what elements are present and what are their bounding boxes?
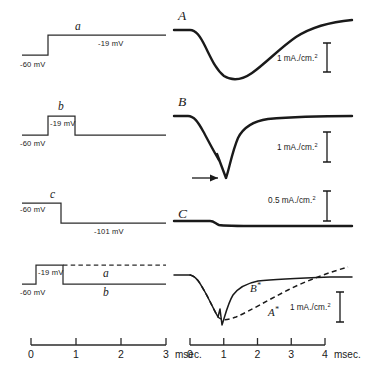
row-c-stimulus-panel: c -60 mV -101 mV [20, 188, 166, 236]
right-axis-tick-0: 0 [187, 348, 193, 360]
panel-letter-B: B [178, 94, 186, 109]
stimulus-holding-label-b: -60 mV [20, 139, 46, 148]
scalebar-label-D: 1mA./cm.2 [290, 302, 331, 312]
curve-label-A-star: A* [267, 305, 279, 318]
right-axis-tick-1: 1 [221, 348, 227, 360]
row-b-current-panel: B 1mA./cm.2 [174, 94, 352, 181]
right-axis-tick-2: 2 [255, 348, 261, 360]
stimulus-step-label-a: -19 mV [98, 39, 124, 48]
voltage-clamp-figure: a -60 mV -19 mV A 1mA./cm.2 b -60 mV -19… [0, 0, 372, 377]
left-axis-tick-2: 2 [118, 348, 124, 360]
stimulus-step-label-c: -101 mV [94, 227, 125, 236]
stimulus-trace-a [22, 35, 166, 55]
left-axis-tick-1: 1 [73, 348, 79, 360]
stimulus-letter-c: c [50, 188, 55, 200]
row-b-stimulus-panel: b -60 mV -19 mV [20, 100, 166, 148]
row-a-current-panel: A 1mA./cm.2 [174, 8, 352, 79]
current-trace-B [174, 116, 219, 160]
left-axis-tick-3: 3 [163, 348, 169, 360]
figure-root: a -60 mV -19 mV A 1mA./cm.2 b -60 mV -19… [0, 0, 372, 377]
stimulus-letter-a: a [75, 20, 81, 32]
stimulus-trace-label-b: b [103, 286, 109, 298]
stimulus-letter-b: b [58, 100, 64, 112]
right-time-axis: 0 1 2 3 4 msec. [187, 338, 361, 360]
stimulus-step-label-d: -19 mV [38, 268, 64, 277]
curve-label-B-star: B* [250, 281, 261, 294]
row-d-current-panel: B* A* 1mA./cm.2 [174, 267, 352, 325]
row-a-stimulus-panel: a -60 mV -19 mV [20, 20, 166, 69]
right-axis-unit: msec. [334, 349, 361, 360]
scalebar-label-C: 0.5mA./cm.2 [268, 195, 316, 205]
right-axis-tick-4: 4 [322, 348, 328, 360]
stimulus-holding-label-d: -60 mV [20, 288, 46, 297]
row-d-stimulus-panel: -60 mV -19 mV a b [20, 265, 166, 298]
panel-letter-A: A [177, 8, 187, 23]
left-time-axis: 0 1 2 3 msec. [28, 338, 202, 360]
row-c-current-panel: C 0.5mA./cm.2 [174, 191, 352, 226]
scalebar-label-B: 1mA./cm.2 [277, 142, 318, 152]
scalebar-label-A: 1mA./cm.2 [277, 53, 318, 63]
current-trace-C [174, 221, 352, 226]
arrow-marker-B [192, 175, 218, 182]
stimulus-trace-label-a: a [103, 267, 109, 279]
stimulus-holding-label-a: -60 mV [20, 60, 46, 69]
left-axis-tick-0: 0 [28, 348, 34, 360]
scalebar-C [323, 191, 331, 221]
current-trace-A [174, 20, 352, 79]
panel-letter-C: C [178, 206, 188, 221]
scalebar-A [323, 43, 331, 72]
stimulus-step-label-b: -19 mV [50, 119, 76, 128]
right-axis-tick-3: 3 [288, 348, 294, 360]
stimulus-trace-b [22, 116, 166, 135]
scalebar-B [323, 132, 331, 162]
stimulus-holding-label-c: -60 mV [20, 205, 46, 214]
scalebar-D [336, 292, 344, 322]
